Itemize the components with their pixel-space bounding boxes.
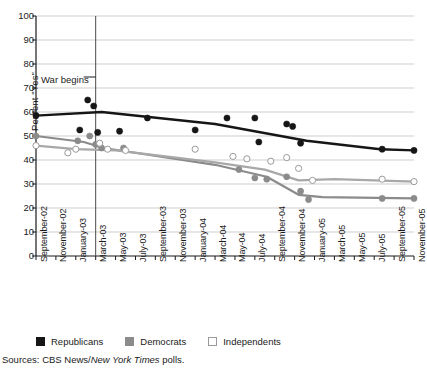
x-tick-label: November-03 [179, 209, 188, 262]
x-tick-label: March-04 [219, 225, 228, 262]
x-tick-label: July-05 [378, 234, 387, 262]
legend-swatch-icon [208, 337, 217, 346]
legend-label: Democrats [140, 336, 186, 347]
source-note: Sources: CBS News/New York Times polls. [2, 354, 184, 365]
x-tick-label: November-02 [59, 209, 68, 262]
chart-plot [0, 0, 427, 368]
trend-lines [36, 112, 414, 198]
x-tick-label: March-05 [338, 225, 347, 262]
x-tick-label: November-05 [418, 209, 427, 262]
legend-swatch-icon [125, 337, 134, 346]
source-italic: New York Times [91, 354, 160, 365]
source-suffix: polls. [160, 354, 185, 365]
x-tick-label: May-04 [238, 233, 247, 262]
source-prefix: Sources: CBS News/ [2, 354, 91, 365]
x-tick-label: September-05 [398, 206, 407, 262]
x-tick-label: January-04 [199, 218, 208, 262]
chart-figure: Percent "Yes" 100 90 80 70 60 50 40 30 2… [0, 0, 427, 368]
legend-label: Republicans [51, 336, 103, 347]
legend-item-independents: Independents [208, 336, 281, 347]
x-tick-label: January-05 [318, 218, 327, 262]
legend-item-democrats: Democrats [125, 336, 186, 347]
chart-legend: Republicans Democrats Independents [36, 336, 303, 347]
x-tick-label: November-04 [298, 209, 307, 262]
x-tick-label: September-02 [40, 206, 49, 262]
legend-label: Independents [223, 336, 281, 347]
x-tick-label: January-03 [79, 218, 88, 262]
x-tick-label: September-03 [159, 206, 168, 262]
x-tick-label: May-05 [358, 233, 367, 262]
x-tick-label: March-03 [99, 225, 108, 262]
x-tick-label: July-03 [139, 234, 148, 262]
x-tick-label: July-04 [258, 234, 267, 262]
legend-item-republicans: Republicans [36, 336, 103, 347]
x-tick-label: September-04 [278, 206, 287, 262]
x-tick-label: May-03 [119, 233, 128, 262]
legend-swatch-icon [36, 337, 45, 346]
